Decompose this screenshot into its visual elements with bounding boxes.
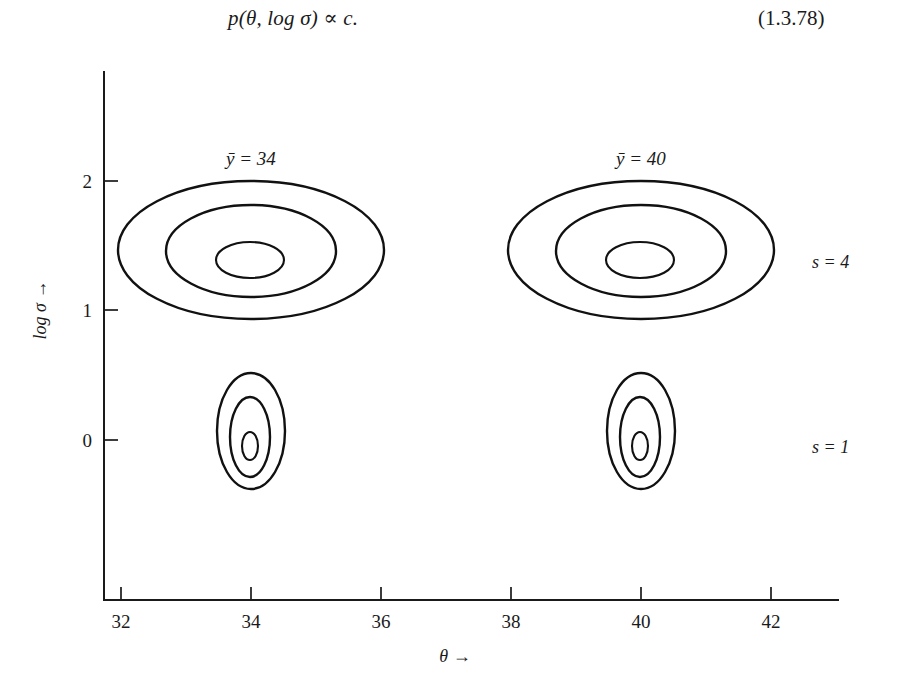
x-tick-label-42: 42 [762,611,781,632]
y-tick-label-1: 1 [83,300,93,321]
y-axis-title: log σ → [30,281,50,340]
annotation-s-4: s = 4 [812,252,849,272]
contour-cluster-ybar34-s4 [118,181,384,319]
contour-level-3 [242,432,258,460]
contour-cluster-ybar34-s1 [217,373,285,489]
contour-level-1 [217,373,285,489]
contour-cluster-ybar40-s4 [508,181,774,319]
contour-level-1 [118,181,384,319]
annotation-s-1: s = 1 [812,437,849,457]
contour-level-2 [166,205,336,297]
contour-level-2 [620,397,660,477]
x-tick-label-36: 36 [372,611,391,632]
x-tick-label-38: 38 [502,611,521,632]
contour-level-1 [508,181,774,319]
contour-cluster-ybar40-s1 [607,373,675,489]
x-axis-title: θ → [439,646,470,666]
contour-level-3 [606,242,674,278]
contour-level-1 [607,373,675,489]
contour-plot: 32 34 36 38 40 42 0 1 2 θ → log σ → [0,0,899,679]
x-tick-label-34: 34 [242,611,262,632]
contour-level-3 [216,242,284,278]
x-tick-label-32: 32 [112,611,131,632]
annotation-ybar-40: ȳ = 40 [614,148,666,169]
y-tick-label-0: 0 [83,430,93,451]
contour-level-2 [230,397,270,477]
x-tick-label-40: 40 [632,611,651,632]
annotation-ybar-34: ȳ = 34 [224,148,276,169]
figure-root: p(θ, log σ) ∝ c. (1.3.78) 32 34 36 38 40… [0,0,899,679]
contour-level-3 [632,432,648,460]
contour-level-2 [556,205,726,297]
y-tick-label-2: 2 [83,171,93,192]
